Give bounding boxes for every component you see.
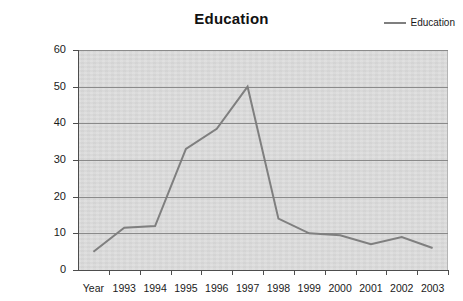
- x-axis-tick: [386, 270, 387, 275]
- y-axis-tick-label: 40: [6, 117, 66, 128]
- x-axis-tick: [171, 270, 172, 275]
- line-series-education: [93, 87, 432, 252]
- x-axis-tick: [201, 270, 202, 275]
- y-axis-tick-label: 50: [6, 81, 66, 92]
- x-axis-tick: [448, 270, 449, 275]
- x-axis-tick-label: 1996: [205, 283, 228, 294]
- legend-line-swatch-icon: [384, 22, 406, 24]
- x-axis-tick: [140, 270, 141, 275]
- x-axis-tick-label: 2000: [328, 283, 351, 294]
- x-axis-tick-label: 2002: [390, 283, 413, 294]
- y-axis-tick-label: 60: [6, 44, 66, 55]
- x-axis-tick: [232, 270, 233, 275]
- x-axis-tick-label: 2003: [421, 283, 444, 294]
- chart-container: Education Education 0102030405060 Year19…: [0, 0, 463, 301]
- y-axis-tick-label: 10: [6, 227, 66, 238]
- x-axis-tick: [109, 270, 110, 275]
- x-axis-tick-label: 1997: [236, 283, 259, 294]
- x-axis-tick-label: 1999: [298, 283, 321, 294]
- x-axis-tick-label: 2001: [359, 283, 382, 294]
- y-axis-tick-label: 20: [6, 191, 66, 202]
- x-axis-tick: [263, 270, 264, 275]
- x-axis-tick: [294, 270, 295, 275]
- x-axis-tick-label: Year: [83, 283, 104, 294]
- y-axis-tick-label: 0: [6, 264, 66, 275]
- x-axis-tick: [417, 270, 418, 275]
- data-series-layer: [78, 50, 448, 270]
- chart-legend: Education: [384, 18, 455, 28]
- x-axis-tick: [325, 270, 326, 275]
- x-axis-tick: [356, 270, 357, 275]
- x-axis-tick-label: 1993: [113, 283, 136, 294]
- legend-entry-education: Education: [384, 18, 455, 28]
- legend-entry-label: Education: [411, 18, 455, 28]
- x-axis-tick-label: 1998: [267, 283, 290, 294]
- y-axis-tick-label: 30: [6, 154, 66, 165]
- x-axis-tick-label: 1994: [143, 283, 166, 294]
- x-axis-tick-label: 1995: [174, 283, 197, 294]
